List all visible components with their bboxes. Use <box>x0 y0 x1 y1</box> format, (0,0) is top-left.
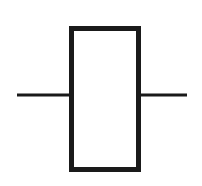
figure-canvas <box>0 0 202 186</box>
resistor-body-rectangle <box>72 29 139 170</box>
resistor-symbol <box>0 0 202 186</box>
